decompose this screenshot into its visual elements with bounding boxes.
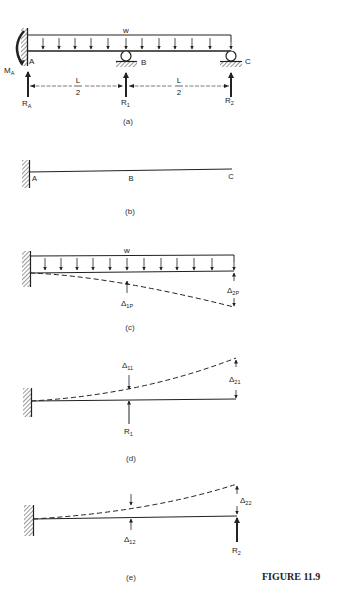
caption-b: (b) — [125, 207, 135, 216]
span-1-denominator: 2 — [76, 88, 81, 97]
delta-22-label: Δ22 — [240, 496, 251, 506]
panel-c: w Δ1P Δ2P (c) — [22, 246, 239, 332]
delta-12-label: Δ12 — [124, 535, 135, 545]
panel-b: A B C (b) — [22, 160, 234, 216]
deflected-shape — [30, 273, 234, 307]
point-label-a: A — [32, 174, 37, 183]
beam-c — [30, 271, 234, 273]
span-2-denominator: 2 — [177, 88, 182, 97]
point-label-c: C — [228, 172, 234, 181]
fixed-support-d — [23, 388, 31, 417]
delta-1p-label: Δ1P — [121, 299, 133, 309]
caption-a: (a) — [123, 117, 133, 126]
panel-d: Δ11 R1 Δ21 (d) — [23, 358, 240, 463]
reaction-label-1: R1 — [124, 427, 133, 437]
panel-a: w A B C MA — [4, 26, 251, 126]
panel-e: Δ12 Δ22 R2 (e) — [24, 484, 251, 582]
fixed-support-e — [24, 505, 33, 536]
figure-11-9: w A B C MA — [0, 0, 337, 600]
load-label-w: w — [122, 26, 129, 35]
moment-label: MA — [4, 66, 15, 76]
point-label-a: A — [29, 57, 35, 66]
reaction-label-1: R1 — [121, 98, 130, 108]
beam-e — [33, 516, 237, 519]
deflected-shape — [31, 358, 236, 401]
span-1-numerator: L — [76, 76, 81, 85]
delta-21-label: Δ21 — [229, 375, 240, 385]
reaction-label-2: R2 — [225, 96, 234, 106]
span-2-numerator: L — [177, 76, 182, 85]
caption-e: (e) — [126, 573, 136, 582]
roller-support-b — [116, 51, 137, 67]
reaction-label-a: RA — [22, 99, 32, 109]
deflected-shape — [33, 484, 237, 519]
point-label-b: B — [128, 174, 133, 183]
reaction-label-2: R2 — [232, 546, 241, 556]
caption-d: (d) — [126, 454, 136, 463]
caption-c: (c) — [125, 323, 135, 332]
distributed-load — [28, 35, 231, 49]
figure-label: FIGURE 11.9 — [262, 571, 320, 582]
delta-2p-label: Δ2P — [227, 286, 239, 296]
point-label-c: C — [245, 57, 251, 66]
fixed-support-b — [22, 160, 29, 188]
beam-b — [29, 169, 232, 172]
dimension-lines — [30, 84, 229, 88]
delta-11-label: Δ11 — [122, 361, 133, 371]
distributed-load — [30, 255, 234, 270]
load-label-w: w — [123, 246, 130, 255]
point-label-b: B — [141, 58, 146, 67]
fixed-support-c — [22, 251, 30, 287]
beam-d — [31, 399, 236, 401]
roller-support-c — [220, 51, 242, 67]
